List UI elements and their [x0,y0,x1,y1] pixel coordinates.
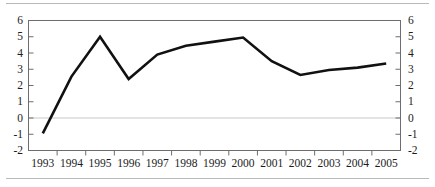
y-axis-left-tick-label: -2 [5,144,23,156]
y-axis-left-tick-label: 6 [5,14,23,26]
y-axis-right-tick-label: 6 [408,14,426,26]
y-axis-left-tick-label: 2 [5,79,23,91]
y-axis-right-tick-label: 3 [408,63,426,75]
y-axis-right-tick-label: 5 [408,30,426,42]
y-axis-left-tick-label: 1 [5,95,23,107]
chart-figure: 6543210-1-2 6543210-1-2 1993199419951996… [0,0,435,187]
y-axis-left-tick-label: 4 [5,47,23,59]
y-axis-left-tick-label: 0 [5,112,23,124]
y-axis-right-tick-label: -1 [408,128,426,140]
y-axis-right-tick-label: 2 [408,79,426,91]
y-axis-left-tick-label: -1 [5,128,23,140]
x-axis-ticks [57,151,372,156]
y-axis-right-tick-label: -2 [408,144,426,156]
y-axis-left-tick-label: 5 [5,30,23,42]
y-axis-right-tick-label: 0 [408,112,426,124]
y-axis-left-tick-label: 3 [5,63,23,75]
x-axis-tick-label: 2005 [369,157,403,169]
y-axis-right-tick-label: 4 [408,47,426,59]
y-axis-right-tick-label: 1 [408,95,426,107]
plot-frame [29,21,401,151]
